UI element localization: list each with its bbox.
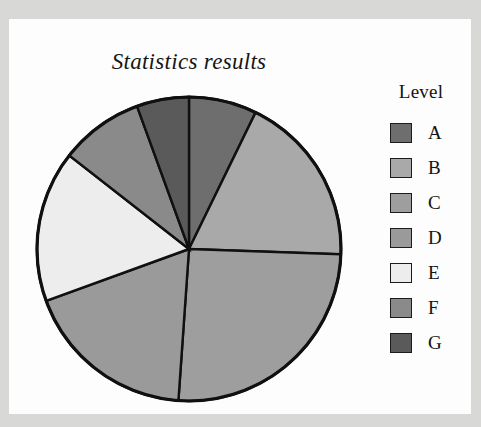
legend-swatch-b bbox=[390, 158, 412, 178]
pie-chart-svg bbox=[9, 19, 379, 414]
pie-slice-c[interactable] bbox=[178, 249, 341, 401]
pie-chart bbox=[9, 19, 379, 414]
legend-swatch-c bbox=[390, 193, 412, 213]
legend-label-g: G bbox=[428, 333, 442, 352]
legend-swatch-g bbox=[390, 333, 412, 353]
legend-label-f: F bbox=[428, 298, 439, 317]
legend-item-e[interactable]: E bbox=[390, 255, 471, 290]
legend-item-f[interactable]: F bbox=[390, 290, 471, 325]
legend-swatch-f bbox=[390, 298, 412, 318]
legend-label-b: B bbox=[428, 158, 441, 177]
chart-panel: Statistics results Level ABCDEFG bbox=[9, 19, 471, 414]
legend-swatch-a bbox=[390, 123, 412, 143]
legend-label-d: D bbox=[428, 228, 442, 247]
figure-frame: Statistics results Level ABCDEFG bbox=[0, 0, 481, 427]
legend-item-c[interactable]: C bbox=[390, 185, 471, 220]
legend-item-a[interactable]: A bbox=[390, 115, 471, 150]
legend-rows: ABCDEFG bbox=[380, 115, 471, 360]
legend-label-c: C bbox=[428, 193, 441, 212]
legend: Level ABCDEFG bbox=[380, 81, 471, 381]
legend-label-e: E bbox=[428, 263, 440, 282]
legend-swatch-d bbox=[390, 228, 412, 248]
legend-label-a: A bbox=[428, 123, 442, 142]
legend-item-b[interactable]: B bbox=[390, 150, 471, 185]
legend-swatch-e bbox=[390, 263, 412, 283]
legend-item-d[interactable]: D bbox=[390, 220, 471, 255]
legend-item-g[interactable]: G bbox=[390, 325, 471, 360]
legend-title: Level bbox=[382, 81, 460, 103]
